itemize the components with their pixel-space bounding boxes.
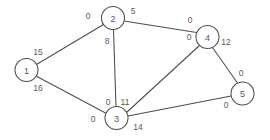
edge-weight-2-4-at-4: 0: [188, 15, 193, 25]
edge-weight-4-5-at-5: 0: [239, 68, 244, 78]
edge-weight-3-5-at-5: 0: [224, 100, 229, 110]
nodes-group: 12345: [15, 7, 254, 130]
graph-edge-2-3: [114, 30, 117, 107]
graph-node-3: 3: [105, 107, 128, 130]
graph-node-4: 4: [196, 26, 219, 49]
graph-diagram: 12345 1501608050110140120: [0, 0, 270, 140]
graph-canvas: 12345 1501608050110140120: [0, 0, 270, 140]
graph-node-2: 2: [102, 7, 125, 30]
edge-weight-2-4-at-2: 5: [131, 6, 136, 16]
edge-weight-1-3-at-3: 0: [91, 114, 96, 124]
edge-weight-3-4-at-4: 0: [187, 32, 192, 42]
graph-edge-3-5: [128, 96, 231, 116]
edge-weight-1-2-at-1: 15: [33, 47, 43, 57]
edge-weight-1-3-at-1: 16: [33, 83, 43, 93]
graph-edge-2-4: [124, 21, 197, 33]
node-label-2: 2: [110, 14, 115, 24]
edge-weight-1-2-at-2: 0: [86, 11, 91, 21]
graph-edge-3-4: [127, 46, 200, 113]
edge-weight-3-5-at-3: 14: [133, 122, 143, 132]
edge-labels-group: 1501608050110140120: [33, 6, 243, 132]
graph-edge-1-3: [36, 76, 107, 114]
node-label-3: 3: [114, 114, 119, 124]
node-label-1: 1: [24, 66, 29, 76]
graph-edge-1-2: [37, 25, 104, 65]
edge-weight-2-3-at-2: 8: [105, 36, 110, 46]
graph-node-1: 1: [15, 59, 38, 82]
graph-edge-4-5: [213, 48, 238, 84]
node-label-5: 5: [240, 89, 245, 99]
edge-weight-4-5-at-4: 12: [221, 37, 231, 47]
edge-weight-3-4-at-3: 11: [121, 97, 130, 107]
node-label-4: 4: [205, 33, 210, 43]
graph-node-5: 5: [231, 82, 254, 105]
edge-weight-2-3-at-3: 0: [106, 97, 111, 107]
